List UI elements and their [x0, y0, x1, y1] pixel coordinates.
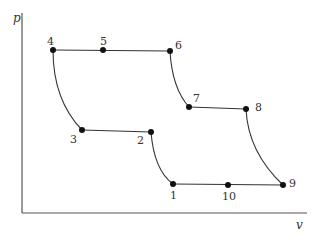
label-point-10: 10: [222, 191, 236, 202]
path-1-2: [151, 132, 173, 184]
point-1: [170, 181, 176, 187]
label-point-5: 5: [100, 36, 107, 47]
point-6: [167, 48, 173, 54]
label-point-8: 8: [255, 102, 262, 113]
point-3: [79, 127, 85, 133]
path-7-8: [189, 107, 246, 109]
point-2: [148, 129, 154, 135]
path-2-3: [82, 130, 151, 132]
label-point-7: 7: [193, 93, 200, 104]
label-point-4: 4: [47, 36, 54, 47]
path-3-4: [53, 50, 82, 130]
path-6-7: [170, 51, 189, 107]
point-9: [280, 182, 286, 188]
label-point-1: 1: [170, 190, 177, 201]
path-4-6: [53, 50, 170, 51]
y-axis-label: p: [13, 12, 21, 24]
path-8-9: [246, 109, 283, 185]
label-point-9: 9: [289, 178, 296, 189]
point-8: [243, 106, 249, 112]
point-10: [225, 182, 231, 188]
label-point-6: 6: [175, 40, 182, 51]
label-point-2: 2: [137, 135, 144, 146]
point-7: [186, 104, 192, 110]
label-point-3: 3: [70, 134, 77, 145]
x-axis-label: v: [296, 219, 303, 231]
